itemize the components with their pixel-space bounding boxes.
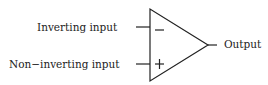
inverting-input-label: Inverting input [37, 21, 118, 33]
output-label: Output [224, 38, 262, 50]
op-amp-triangle [150, 9, 208, 81]
non-inverting-input-label: Non−inverting input [9, 58, 120, 70]
op-amp-diagram: Inverting input Non−inverting input Outp… [0, 0, 268, 85]
